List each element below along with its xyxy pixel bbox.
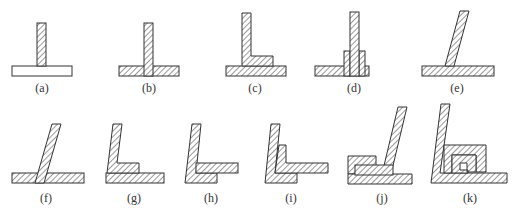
inner-plate: [355, 165, 393, 175]
panel-e: (e): [422, 11, 494, 95]
label-h: (h): [204, 191, 218, 205]
l-member: [107, 124, 139, 173]
label-a: (a): [35, 81, 48, 95]
base-plate: [106, 173, 164, 183]
label-j: (j): [376, 191, 387, 205]
l-member: [242, 13, 273, 66]
vertical-member: [350, 12, 359, 76]
left-bracket: [344, 51, 350, 76]
panel-g: (g): [106, 124, 164, 205]
vertical-member: [144, 23, 153, 76]
label-e: (e): [450, 81, 463, 95]
label-f: (f): [40, 191, 52, 205]
panel-c: (c): [226, 13, 286, 95]
base-plate: [12, 173, 84, 183]
right-bracket: [359, 51, 365, 76]
joint-diagram: (a) (b) (c) (d) (e) (f) (g): [0, 0, 526, 219]
label-k: (k): [463, 191, 477, 205]
inner-hook: [452, 155, 476, 173]
label-c: (c): [248, 81, 261, 95]
horizontal-plate: [196, 163, 238, 173]
panel-j: (j): [348, 107, 412, 205]
panel-d: (d): [315, 12, 369, 95]
panel-k: (k): [431, 104, 507, 205]
panel-i: (i): [265, 124, 328, 205]
base-plate: [12, 66, 72, 76]
label-d: (d): [347, 81, 361, 95]
label-i: (i): [285, 191, 296, 205]
inner-l-plate: [275, 145, 328, 173]
label-g: (g): [127, 191, 141, 205]
panel-f: (f): [12, 124, 84, 205]
panel-h: (h): [185, 124, 238, 205]
inclined-member: [445, 11, 469, 66]
l-member: [185, 124, 217, 183]
vertical-member: [37, 23, 46, 66]
panel-b: (b): [119, 23, 179, 95]
base-plate: [226, 66, 286, 76]
label-b: (b): [142, 81, 156, 95]
panel-a: (a): [12, 23, 72, 95]
base-plate: [422, 66, 494, 76]
